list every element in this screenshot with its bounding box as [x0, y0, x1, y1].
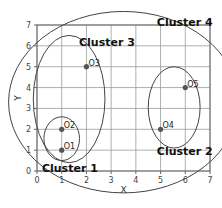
- y-tick-label: 0: [26, 167, 31, 176]
- data-points: O1O2O3O4O5: [59, 59, 199, 153]
- x-tick-label: 4: [133, 176, 138, 185]
- cluster-2-label: Cluster 2: [157, 145, 213, 158]
- point-label: O4: [163, 121, 174, 130]
- y-tick-label: 5: [26, 63, 31, 72]
- y-axis-label: Y: [13, 95, 23, 102]
- point-label: O2: [64, 121, 75, 130]
- cluster-4-label: Cluster 4: [157, 16, 213, 29]
- point-label: O1: [64, 142, 75, 151]
- y-tick-label: 4: [26, 84, 31, 93]
- x-tick-label: 3: [109, 176, 114, 185]
- y-tick-label: 2: [26, 125, 31, 134]
- x-axis-label: X: [120, 185, 126, 195]
- cluster-3-label: Cluster 3: [79, 36, 135, 49]
- x-tick-label: 0: [34, 176, 39, 185]
- point-label: O5: [187, 80, 198, 89]
- cluster-1-label: Cluster 1: [42, 162, 98, 175]
- y-tick-label: 3: [26, 104, 31, 113]
- x-tick-label: 5: [158, 176, 163, 185]
- point-label: O3: [88, 59, 99, 68]
- x-tick-label: 7: [207, 176, 212, 185]
- x-tick-label: 2: [84, 176, 89, 185]
- y-tick-label: 7: [26, 21, 31, 30]
- cluster-scatter-chart: 0123456701234567 O1O2O3O4O5 Cluster 1Clu…: [0, 0, 222, 208]
